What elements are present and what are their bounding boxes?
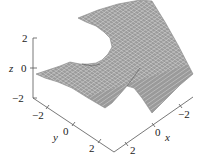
mesh-line (0, 0, 10, 121)
mesh-line (0, 0, 65, 104)
x-tick-label-2: 2 (130, 144, 136, 156)
mesh-line (0, 0, 68, 103)
z-axis: 2 0 −2 z (8, 32, 37, 104)
mesh-line (0, 0, 75, 33)
mesh-line (150, 0, 202, 1)
surface-plot: 2 0 −2 z −2 0 2 y 2 0 −2 x (0, 0, 202, 160)
mesh-line (0, 0, 81, 37)
x-axis-label: x (164, 131, 170, 143)
mesh-line (0, 0, 53, 15)
z-axis-label: z (8, 62, 14, 74)
mesh-line (0, 0, 89, 44)
mesh-line (0, 0, 51, 108)
mesh-line (0, 0, 45, 8)
mesh-line (0, 0, 64, 24)
mesh-line (0, 0, 50, 13)
mesh-line (0, 0, 106, 57)
mesh-line (0, 0, 59, 19)
y-tick-label-0: 0 (63, 125, 69, 137)
mesh-line (0, 0, 95, 48)
mesh-line (0, 0, 48, 109)
mesh-line (0, 0, 70, 28)
mesh-line (0, 0, 98, 51)
mesh-line (0, 0, 112, 62)
mesh-line (0, 0, 7, 122)
mesh-line (0, 0, 103, 55)
y-tick-label-neg2: −2 (32, 109, 44, 121)
surface (0, 0, 202, 160)
y-axis-label: y (52, 131, 58, 143)
mesh-line (0, 0, 84, 39)
mesh-line (0, 0, 109, 59)
mesh-line (0, 0, 61, 22)
mesh-line (0, 0, 58, 106)
mesh-line (0, 0, 78, 35)
z-tick-label-neg2: −2 (12, 92, 24, 104)
mesh-line (0, 0, 39, 4)
mesh-line (0, 0, 3, 123)
y-tick-label-2: 2 (89, 142, 95, 154)
mesh-line (0, 0, 55, 107)
mesh-line (0, 0, 115, 64)
mesh-line (0, 0, 92, 46)
mesh-line (0, 0, 75, 101)
mesh-line (0, 0, 47, 10)
mesh-line (146, 0, 202, 2)
x-tick-label-0: 0 (155, 126, 161, 138)
mesh-line (0, 0, 36, 1)
mesh-line (0, 0, 87, 42)
z-tick-label-2: 2 (22, 32, 28, 44)
mesh-line (0, 0, 101, 53)
mesh-line (0, 0, 67, 26)
mesh-line (0, 0, 73, 30)
mesh-line (0, 0, 56, 17)
mesh-line (0, 0, 61, 105)
z-tick-label-0: 0 (21, 62, 27, 74)
mesh-line (0, 0, 72, 102)
mesh-line (0, 0, 42, 6)
x-tick-label-neg2: −2 (178, 108, 190, 120)
